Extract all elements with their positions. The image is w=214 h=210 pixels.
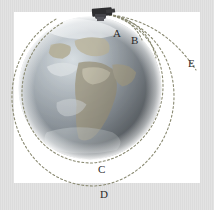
label-b: B [131, 35, 139, 46]
label-a: A [113, 28, 121, 39]
label-e: E [188, 58, 195, 69]
label-c: C [98, 164, 106, 175]
cannon-barrel [106, 8, 115, 13]
cannon-mount [97, 17, 104, 21]
label-d: D [100, 189, 108, 200]
cannon [89, 5, 116, 20]
earth-svg [17, 15, 163, 161]
earth-globe [17, 15, 163, 161]
